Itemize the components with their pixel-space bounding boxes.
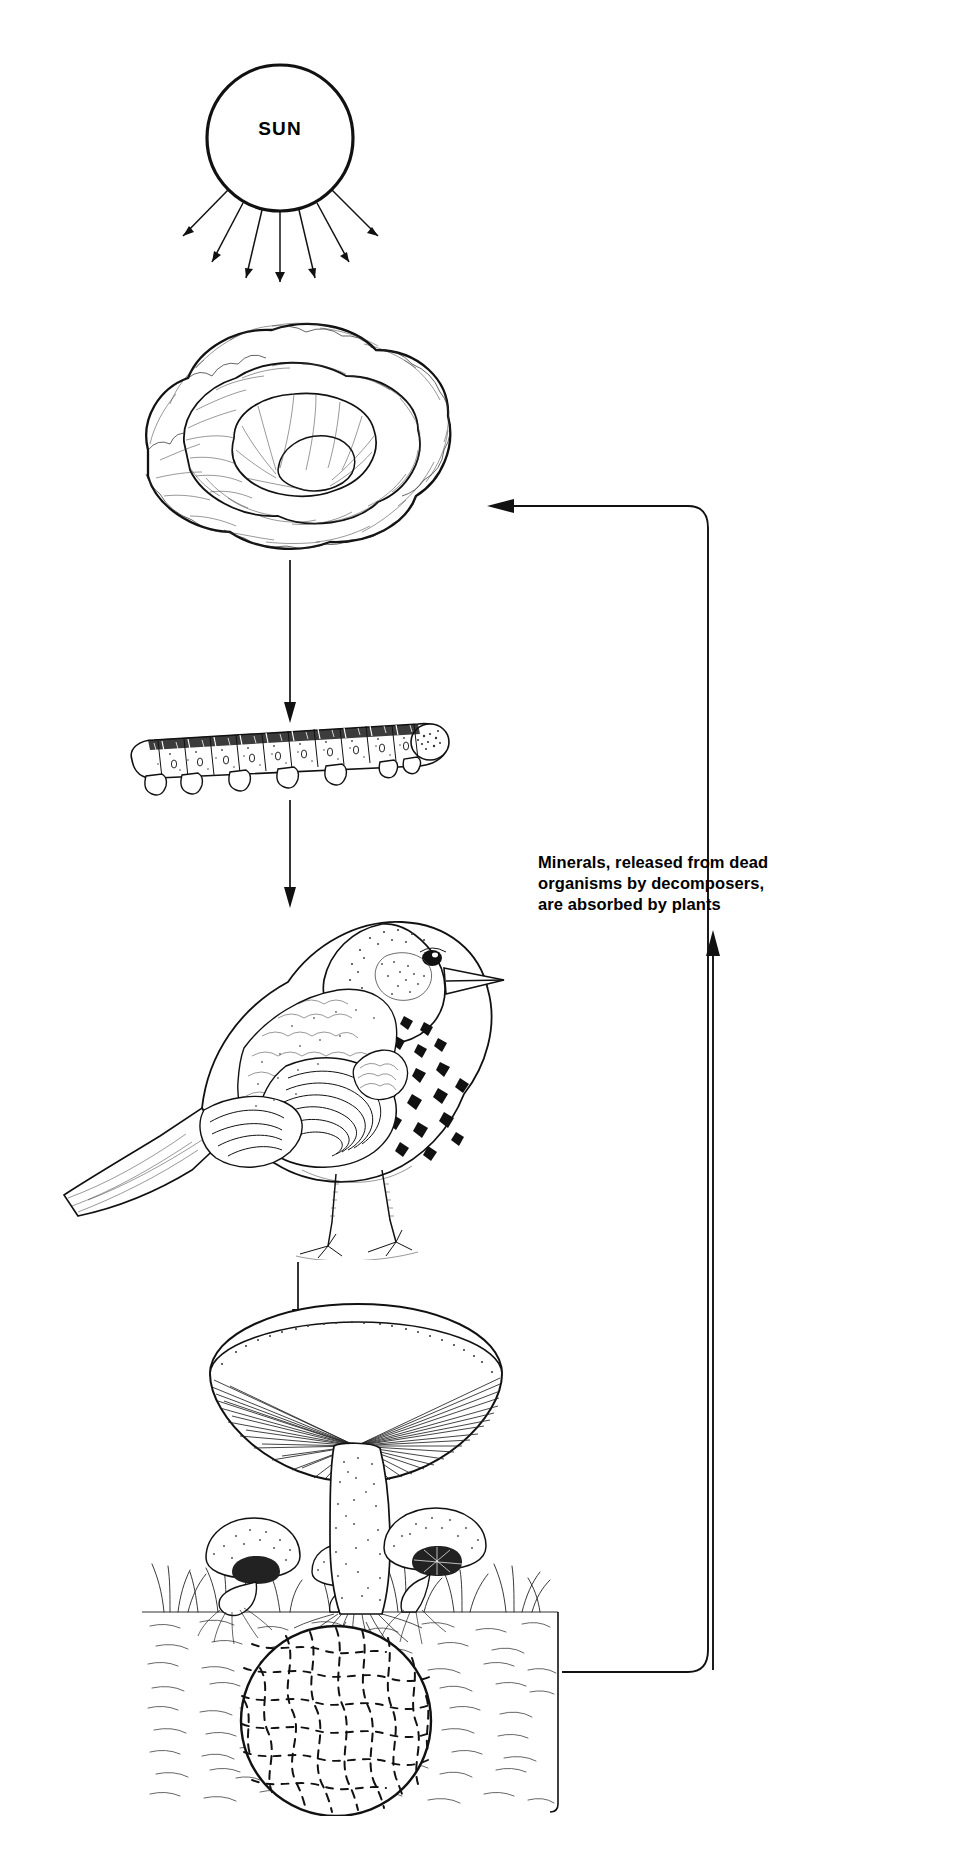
caption-line-3: are absorbed by plants <box>538 894 838 915</box>
sun-group <box>150 50 410 310</box>
thrush-bird-icon <box>52 840 522 1260</box>
caption-line-2: organisms by decomposers, <box>538 873 838 894</box>
sun-label: SUN <box>205 118 355 140</box>
caterpillar-icon <box>118 712 458 802</box>
arrow-up-to-caption <box>698 930 728 1670</box>
cabbage-icon <box>130 310 460 560</box>
mineral-cycle-caption: Minerals, released from dead organisms b… <box>538 852 838 915</box>
magnified-hyphae-circle-icon <box>241 1626 432 1816</box>
diagram-canvas: SUN <box>0 0 968 1864</box>
arrow-cabbage-to-caterpillar <box>278 560 302 725</box>
caption-line-1: Minerals, released from dead <box>538 852 838 873</box>
